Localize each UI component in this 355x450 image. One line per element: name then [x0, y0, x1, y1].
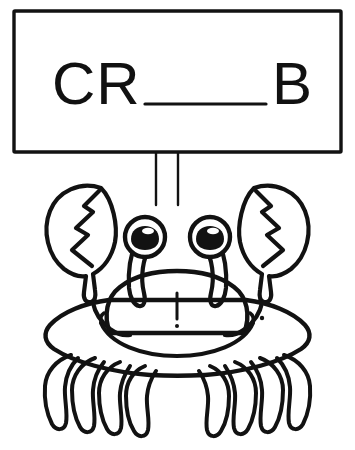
- crab-eye-left-glint: [142, 228, 154, 234]
- crab-eye-left[interactable]: [125, 217, 165, 257]
- worksheet-canvas: CR B: [0, 0, 355, 450]
- sign-suffix-letter: B: [272, 50, 313, 117]
- crab-eye-right-glint: [207, 228, 219, 234]
- sign-prefix-letters: CR: [52, 50, 141, 117]
- crab-eye-right[interactable]: [190, 217, 230, 257]
- sign-board[interactable]: CR B: [14, 11, 341, 152]
- crab-cheek-dot: [260, 316, 264, 320]
- crab-nose-dot: [175, 324, 179, 328]
